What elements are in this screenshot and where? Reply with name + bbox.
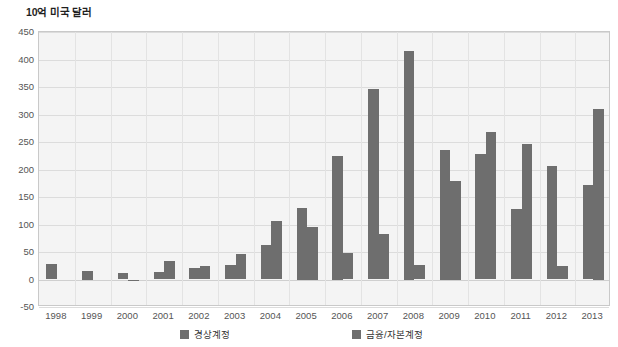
y-axis-tick-label: 400 [0, 53, 34, 64]
x-axis-tick-label: 2008 [403, 310, 424, 321]
category-separator [468, 32, 469, 305]
bar [189, 268, 200, 280]
bar [475, 154, 486, 279]
bar [307, 227, 318, 279]
gridline [39, 60, 609, 61]
category-separator [575, 32, 576, 305]
bar [343, 253, 354, 279]
category-separator [75, 32, 76, 305]
bar [379, 234, 390, 279]
x-axis-tick-label: 2000 [117, 310, 138, 321]
y-axis-tick-label: 0 [0, 273, 34, 284]
gridline [39, 87, 609, 88]
category-separator [325, 32, 326, 305]
x-axis-tick-label: 2004 [260, 310, 281, 321]
bar [450, 181, 461, 280]
bar [414, 265, 425, 280]
bar [511, 209, 522, 280]
y-axis-tick-label: 200 [0, 163, 34, 174]
category-separator [397, 32, 398, 305]
bar [128, 280, 139, 281]
bar [404, 51, 415, 279]
bar [368, 89, 379, 280]
bar [557, 266, 568, 279]
y-axis-unit-title: 10억 미국 달러 [26, 4, 92, 19]
x-axis-tick-label: 2001 [153, 310, 174, 321]
x-axis-tick-label: 2002 [188, 310, 209, 321]
category-separator [504, 32, 505, 305]
y-axis-tick-label: 450 [0, 26, 34, 37]
category-separator [254, 32, 255, 305]
bar-chart: 10억 미국 달러 450400350300250200150100500-50… [0, 0, 618, 347]
bar [236, 254, 247, 279]
category-separator [540, 32, 541, 305]
legend-item[interactable]: 금융/자본계정 [352, 327, 423, 341]
category-separator [289, 32, 290, 305]
bar [225, 265, 236, 279]
y-axis-tick-label: 300 [0, 108, 34, 119]
bar [440, 150, 451, 279]
bar [297, 208, 308, 280]
gridline [39, 307, 609, 308]
bar [118, 273, 129, 280]
category-separator [432, 32, 433, 305]
bar [522, 144, 533, 279]
category-separator [182, 32, 183, 305]
x-axis-tick-label: 2007 [367, 310, 388, 321]
bar [583, 185, 594, 280]
y-axis-tick-label: 50 [0, 246, 34, 257]
x-axis-tick-label: 2012 [546, 310, 567, 321]
chart-legend: 경상계정금융/자본계정 [0, 327, 618, 343]
x-axis-tick-label: 2003 [224, 310, 245, 321]
y-axis-tick-label: 150 [0, 191, 34, 202]
bar [200, 266, 211, 279]
category-separator [111, 32, 112, 305]
gridline [39, 280, 609, 281]
legend-swatch-current-account [180, 330, 189, 339]
x-axis-tick-label: 1999 [81, 310, 102, 321]
bar [593, 109, 604, 280]
gridline [39, 142, 609, 143]
category-separator [218, 32, 219, 305]
bar [164, 261, 175, 280]
x-axis-tick-label: 2005 [296, 310, 317, 321]
gridline [39, 115, 609, 116]
bar [154, 272, 165, 279]
y-axis-tick-label: -50 [0, 301, 34, 312]
x-axis-tick-label: 2010 [474, 310, 495, 321]
category-separator [361, 32, 362, 305]
bar [261, 245, 272, 279]
x-axis-tick-label: 2013 [582, 310, 603, 321]
gridline [39, 32, 609, 33]
legend-item-label: 금융/자본계정 [366, 327, 423, 341]
legend-swatch-financial-capital-account [352, 330, 361, 339]
x-axis-tick-label: 1998 [45, 310, 66, 321]
y-axis-tick-label: 350 [0, 81, 34, 92]
bar [46, 264, 57, 279]
x-axis-tick-label: 2011 [510, 310, 530, 321]
bar [82, 271, 93, 279]
plot-area [38, 31, 610, 306]
category-separator [146, 32, 147, 305]
x-axis-tick-label: 2009 [439, 310, 460, 321]
bar [271, 221, 282, 280]
bar [547, 166, 558, 279]
y-axis-tick-label: 250 [0, 136, 34, 147]
legend-item-label: 경상계정 [194, 327, 230, 341]
x-axis-tick-label: 2006 [331, 310, 352, 321]
y-axis-tick-label: 100 [0, 218, 34, 229]
legend-item[interactable]: 경상계정 [180, 327, 230, 341]
bar [486, 132, 497, 279]
bar [332, 156, 343, 280]
